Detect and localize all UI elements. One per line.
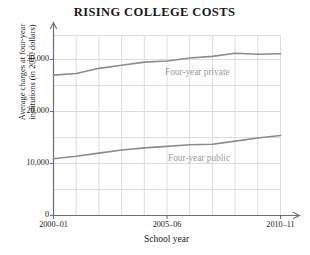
x-tick-label: 2005–06 [137,220,197,229]
x-tick-labels: 2000–012005–062010–11 [0,0,309,255]
chart-figure: RISING COLLEGE COSTS Average charges at … [0,0,309,255]
x-tick-label: 2000–01 [24,220,84,229]
series-label-four-year-public: Four-year public [168,153,230,163]
x-tick-label: 2010–11 [251,220,310,229]
series-label-four-year-private: Four-year private [165,67,230,77]
